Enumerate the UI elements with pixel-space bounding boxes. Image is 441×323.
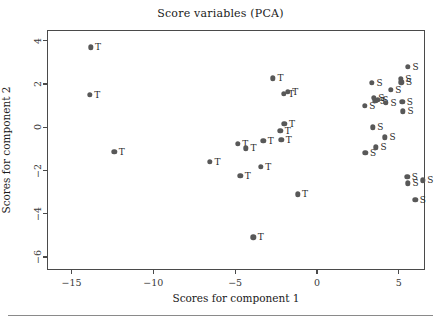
data-point-label: S (427, 175, 433, 185)
data-point-s (413, 197, 418, 202)
data-point-label: T (94, 90, 100, 100)
data-point-t (238, 173, 243, 178)
x-tick-label: −10 (143, 277, 163, 288)
data-point-t (243, 145, 248, 150)
y-tick-mark (43, 127, 47, 128)
x-tick-label: −15 (62, 277, 82, 288)
y-tick-label: 4 (32, 38, 43, 44)
data-point-label: T (278, 73, 284, 83)
data-point-label: S (406, 77, 412, 87)
x-tick-mark (398, 270, 399, 274)
x-tick-mark (235, 270, 236, 274)
data-point-label: T (268, 136, 274, 146)
y-tick-label: 2 (32, 81, 43, 87)
x-tick-mark (153, 270, 154, 274)
data-point-label: T (265, 162, 271, 172)
y-tick-mark (43, 170, 47, 171)
data-point-t (260, 138, 265, 143)
data-point-label: S (413, 178, 419, 188)
x-tick-label: 5 (396, 277, 402, 288)
y-tick-label: 0 (32, 124, 43, 130)
x-tick-label: −5 (228, 277, 242, 288)
data-point-label: T (119, 147, 125, 157)
data-point-t (278, 128, 283, 133)
data-point-s (388, 87, 393, 92)
bottom-divider (8, 315, 433, 316)
data-point-label: T (302, 189, 308, 199)
data-point-s (370, 125, 375, 130)
data-point-s (420, 177, 425, 182)
y-tick-mark (43, 256, 47, 257)
data-point-label: S (390, 98, 396, 108)
data-point-s (404, 174, 409, 179)
data-point-label: T (251, 143, 257, 153)
data-point-s (369, 80, 374, 85)
data-point-label: S (395, 85, 401, 95)
data-point-s (362, 103, 367, 108)
data-point-s (400, 99, 405, 104)
y-tick-label: −6 (32, 250, 43, 264)
data-point-t (278, 137, 283, 142)
data-point-label: T (245, 171, 251, 181)
y-tick-mark (43, 213, 47, 214)
data-point-label: S (377, 78, 383, 88)
data-point-s (405, 181, 410, 186)
data-point-s (400, 109, 405, 114)
data-point-s (405, 64, 410, 69)
x-tick-mark (316, 270, 317, 274)
data-point-t (88, 45, 93, 50)
x-tick-mark (71, 270, 72, 274)
data-point-label: S (377, 122, 383, 132)
data-point-label: S (381, 142, 387, 152)
y-tick-label: −4 (32, 207, 43, 221)
data-point-s (363, 150, 368, 155)
x-axis-title: Scores for component 1 (47, 292, 425, 304)
data-point-t (207, 159, 212, 164)
data-point-label: S (407, 97, 413, 107)
y-tick-mark (43, 40, 47, 41)
data-point-t (87, 92, 92, 97)
data-point-s (399, 80, 404, 85)
data-point-t (251, 235, 256, 240)
data-point-label: S (413, 62, 419, 72)
data-point-t (270, 75, 275, 80)
data-point-s (373, 145, 378, 150)
data-points-layer: TTTTTTTTTTTTTTTTTSSSSSSSSSSSSSSSSSSSS (48, 31, 424, 269)
pca-score-plot-figure: Score variables (PCA) TTTTTTTTTTTTTTTTTS… (0, 0, 441, 323)
data-point-label: S (390, 132, 396, 142)
plot-area: TTTTTTTTTTTTTTTTTSSSSSSSSSSSSSSSSSSSS (47, 30, 425, 270)
data-point-t (258, 164, 263, 169)
data-point-t (112, 149, 117, 154)
data-point-label: T (286, 135, 292, 145)
y-tick-mark (43, 83, 47, 84)
data-point-t (235, 141, 240, 146)
y-axis-title: Scores for component 2 (0, 86, 12, 213)
y-tick-label: −2 (32, 164, 43, 178)
x-tick-label: 0 (314, 277, 320, 288)
chart-title: Score variables (PCA) (0, 7, 441, 20)
data-point-label: T (289, 119, 295, 129)
data-point-t (295, 192, 300, 197)
data-point-s (382, 135, 387, 140)
data-point-label: S (420, 195, 426, 205)
data-point-label: T (292, 87, 298, 97)
data-point-label: T (258, 232, 264, 242)
data-point-label: T (215, 157, 221, 167)
data-point-label: S (408, 106, 414, 116)
data-point-label: T (95, 42, 101, 52)
